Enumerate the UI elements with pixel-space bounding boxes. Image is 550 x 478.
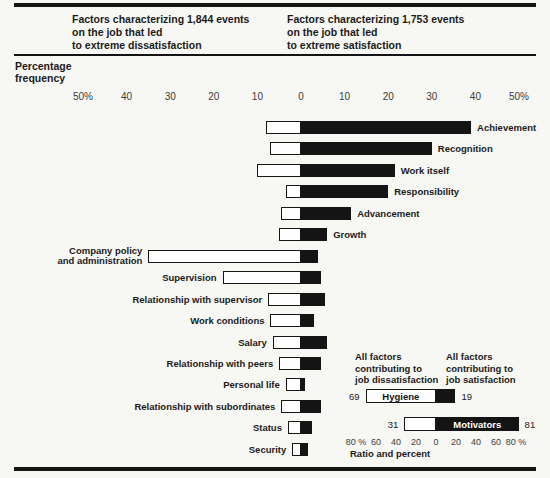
x-axis-tick-label: 50% xyxy=(509,91,529,102)
dissatisfaction-header-line: on the job that led xyxy=(72,26,287,39)
category-label-achievement: Achievement xyxy=(477,123,536,134)
inset-bar-white-hygiene: Hygiene xyxy=(366,389,436,403)
top-rule xyxy=(14,3,536,7)
dissatisfaction-bar-advancement xyxy=(281,207,301,220)
dissatisfaction-bar-supervision xyxy=(223,271,301,284)
dissatisfaction-bar-personal-life xyxy=(286,378,301,391)
inset-dissatisfaction-title-line: contributing to xyxy=(355,363,438,375)
inset-satisfaction-title: All factors contributing to job satisfac… xyxy=(446,351,516,386)
category-label-relationship-with-peers: Relationship with peers xyxy=(167,359,274,370)
axis-title-line: Percentage xyxy=(15,60,72,72)
inset-dissatisfaction-title: All factors contributing to job dissatis… xyxy=(355,351,438,386)
satisfaction-bar-supervision xyxy=(301,271,321,284)
header-rule xyxy=(14,54,536,56)
category-label-advancement: Advancement xyxy=(357,209,419,220)
satisfaction-header: Factors characterizing 1,753 events on t… xyxy=(287,13,502,51)
dissatisfaction-bar-recognition xyxy=(270,142,301,155)
inset-axis-caption: Ratio and percent xyxy=(350,448,430,459)
satisfaction-bar-work-itself xyxy=(301,164,395,177)
category-label-status: Status xyxy=(253,423,282,434)
category-label-supervision: Supervision xyxy=(162,273,216,284)
satisfaction-header-line: on the job that led xyxy=(287,26,502,39)
inset-axis-tick-label: 80 % xyxy=(506,437,527,447)
dissatisfaction-header-line: to extreme dissatisfaction xyxy=(72,39,287,52)
dissatisfaction-bar-work-conditions xyxy=(270,314,301,327)
dissatisfaction-bar-responsibility xyxy=(286,185,301,198)
dissatisfaction-bar-relationship-with-peers xyxy=(279,357,301,370)
inset-axis-tick-label: 40 xyxy=(471,437,481,447)
category-label-recognition: Recognition xyxy=(438,144,493,155)
inset-bar-black-hygiene xyxy=(436,389,455,403)
inset-left-value-motivators: 31 xyxy=(388,419,399,430)
satisfaction-bar-personal-life xyxy=(301,378,305,391)
inset-satisfaction-title-line: All factors xyxy=(446,351,516,363)
axis-title-line: frequency xyxy=(15,72,72,84)
inset-axis-tick-label: 20 xyxy=(451,437,461,447)
category-label-relationship-with-subordinates: Relationship with subordinates xyxy=(134,402,275,413)
inset-axis-tick-label: 80 % xyxy=(346,437,367,447)
category-label-work-conditions: Work conditions xyxy=(190,316,264,327)
x-axis-tick-label: 50% xyxy=(73,91,93,102)
satisfaction-bar-status xyxy=(301,421,312,434)
dissatisfaction-bar-relationship-with-subordinates xyxy=(281,400,301,413)
dissatisfaction-bar-achievement xyxy=(266,121,301,134)
x-axis-tick-label: 10 xyxy=(339,91,350,102)
herzberg-two-factor-chart: Factors characterizing 1,844 events on t… xyxy=(0,0,550,478)
inset-axis-tick-label: 60 xyxy=(371,437,381,447)
inset-right-value-motivators: 81 xyxy=(525,419,536,430)
satisfaction-bar-recognition xyxy=(301,142,432,155)
satisfaction-bar-salary xyxy=(301,336,327,349)
satisfaction-bar-achievement xyxy=(301,121,471,134)
x-axis-tick-label: 10 xyxy=(252,91,263,102)
satisfaction-header-line: Factors characterizing 1,753 events xyxy=(287,13,502,26)
satisfaction-bar-advancement xyxy=(301,207,351,220)
category-label-security: Security xyxy=(249,445,287,456)
dissatisfaction-bar-growth xyxy=(279,228,301,241)
satisfaction-bar-relationship-with-peers xyxy=(301,357,321,370)
dissatisfaction-bar-salary xyxy=(273,336,301,349)
inset-bar-black-motivators: Motivators xyxy=(436,417,519,431)
inset-axis-tick-label: 60 xyxy=(491,437,501,447)
satisfaction-bar-work-conditions xyxy=(301,314,314,327)
dissatisfaction-bar-status xyxy=(288,421,301,434)
satisfaction-bar-growth xyxy=(301,228,327,241)
x-axis-tick-label: 40 xyxy=(121,91,132,102)
category-label-relationship-with-supervisor: Relationship with supervisor xyxy=(132,295,262,306)
inset-bar-white-motivators xyxy=(404,417,436,431)
satisfaction-bar-responsibility xyxy=(301,185,388,198)
category-label-salary: Salary xyxy=(238,338,267,349)
x-axis-tick-label: 0 xyxy=(298,91,304,102)
dissatisfaction-bar-work-itself xyxy=(257,164,301,177)
x-axis-tick-label: 20 xyxy=(383,91,394,102)
inset-right-value-hygiene: 19 xyxy=(461,391,472,402)
category-label-work-itself: Work itself xyxy=(401,166,449,177)
inset-left-value-hygiene: 69 xyxy=(349,391,360,402)
category-label-company-policy-and-administration: Company policyand administration xyxy=(57,246,142,267)
satisfaction-header-line: to extreme satisfaction xyxy=(287,39,502,52)
bottom-rule xyxy=(14,467,536,471)
x-axis-tick-label: 40 xyxy=(470,91,481,102)
inset-axis-tick-label: 40 xyxy=(391,437,401,447)
dissatisfaction-bar-relationship-with-supervisor xyxy=(268,293,301,306)
satisfaction-bar-relationship-with-supervisor xyxy=(301,293,325,306)
satisfaction-bar-company-policy-and-administration xyxy=(301,250,318,263)
category-label-growth: Growth xyxy=(333,230,366,241)
dissatisfaction-bar-security xyxy=(292,443,301,456)
dissatisfaction-header: Factors characterizing 1,844 events on t… xyxy=(72,13,287,51)
dissatisfaction-header-line: Factors characterizing 1,844 events xyxy=(72,13,287,26)
axis-title: Percentage frequency xyxy=(15,60,72,84)
satisfaction-bar-security xyxy=(301,443,308,456)
inset-satisfaction-title-line: contributing to xyxy=(446,363,516,375)
dissatisfaction-bar-company-policy-and-administration xyxy=(148,250,301,263)
x-axis-tick-label: 30 xyxy=(165,91,176,102)
satisfaction-bar-relationship-with-subordinates xyxy=(301,400,321,413)
x-axis-tick-label: 20 xyxy=(208,91,219,102)
category-label-responsibility: Responsibility xyxy=(394,187,459,198)
inset-dissatisfaction-title-line: job dissatisfaction xyxy=(355,374,438,386)
category-label-personal-life: Personal life xyxy=(223,380,280,391)
x-axis-tick-label: 30 xyxy=(426,91,437,102)
inset-satisfaction-title-line: job satisfaction xyxy=(446,374,516,386)
inset-axis-tick-label: 20 xyxy=(411,437,421,447)
inset-dissatisfaction-title-line: All factors xyxy=(355,351,438,363)
inset-axis-tick-label: 0 xyxy=(433,437,438,447)
